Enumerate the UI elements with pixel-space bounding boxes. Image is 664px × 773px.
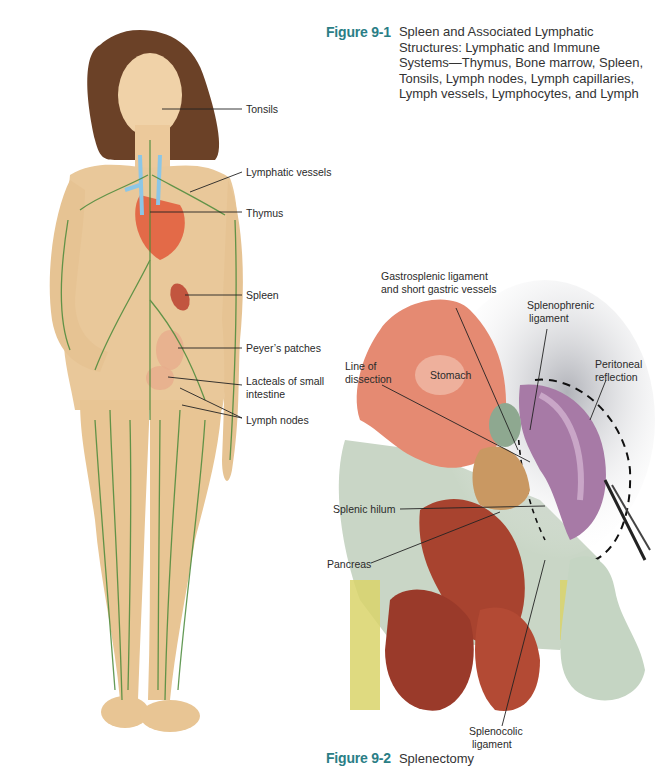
figure-9-2-caption-text: Splenectomy (399, 751, 474, 767)
label-splenophrenic-ligament: Splenophrenic ligament (527, 299, 594, 324)
label-splenocolic-ligament: Splenocolic ligament (469, 725, 523, 750)
label-peritoneal-reflection: Peritoneal reflection (595, 358, 642, 383)
label-stomach: Stomach (430, 369, 471, 382)
figure-9-2-caption: Figure 9-2 Splenectomy (326, 750, 474, 767)
label-pancreas: Pancreas (327, 558, 371, 571)
label-line: reflection (595, 371, 642, 384)
label-line: Splenophrenic (527, 299, 594, 312)
label-line: Gastrosplenic ligament (381, 270, 497, 283)
figure-9-2-number: Figure 9-2 (326, 750, 391, 766)
label-line: Line of (345, 360, 392, 373)
label-splenic-hilum: Splenic hilum (333, 503, 395, 516)
label-line: and short gastric vessels (381, 283, 497, 296)
label-gastrosplenic-ligament: Gastrosplenic ligament and short gastric… (381, 270, 497, 295)
label-line: dissection (345, 373, 392, 386)
label-line: ligament (469, 738, 523, 751)
splenectomy-illustration (0, 0, 664, 773)
label-line: Splenocolic (469, 725, 523, 738)
label-line-of-dissection: Line of dissection (345, 360, 392, 385)
label-line: ligament (527, 312, 594, 325)
label-line: Peritoneal (595, 358, 642, 371)
